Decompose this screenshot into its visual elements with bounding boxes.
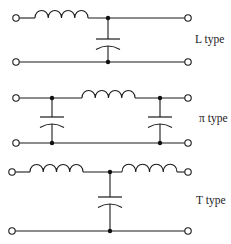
t-type-inductor-symbol <box>122 164 177 172</box>
l-type-label: L type <box>195 34 224 46</box>
l-type-junction-dot <box>106 60 110 64</box>
l-type-junction-dot <box>106 16 110 20</box>
l-type-inductor-symbol <box>35 11 88 18</box>
t-type-junction-dot <box>108 170 112 174</box>
l-type-terminal-icon <box>13 15 19 21</box>
pi-type-junction-dot <box>50 141 54 145</box>
pi-type-terminal-icon <box>185 140 191 146</box>
t-type-label: T type <box>196 195 226 207</box>
lc-filter-diagram: L type π type T type <box>0 0 231 244</box>
l-type-terminal-icon <box>185 59 191 65</box>
pi-type-junction-dot <box>158 96 162 100</box>
pi-type-terminal-icon <box>13 140 19 146</box>
t-type-junction-dot <box>108 229 112 233</box>
pi-type-terminal-icon <box>13 95 19 101</box>
t-type-terminal-icon <box>9 228 15 234</box>
pi-type-terminal-icon <box>185 95 191 101</box>
pi-type-inductor-symbol <box>82 91 135 98</box>
l-type-terminal-icon <box>185 15 191 21</box>
pi-type-junction-dot <box>158 141 162 145</box>
pi-type-label: π type <box>199 113 227 125</box>
l-type-terminal-icon <box>13 59 19 65</box>
t-type-inductor-symbol <box>30 165 83 172</box>
t-type-terminal-icon <box>185 169 191 175</box>
pi-type-junction-dot <box>50 96 54 100</box>
t-type-terminal-icon <box>185 228 191 234</box>
t-type-terminal-icon <box>9 169 15 175</box>
